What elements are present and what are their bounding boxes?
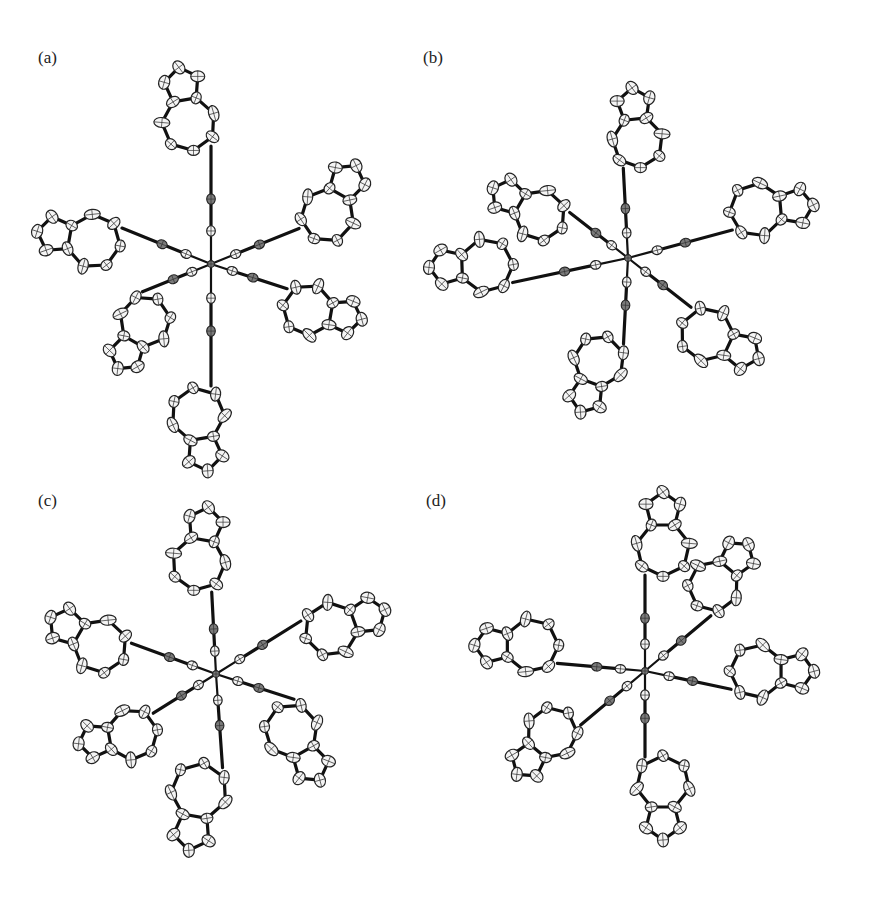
- ring-carbon-atom: [562, 706, 574, 720]
- ring-carbon-atom: [722, 664, 738, 679]
- ring-carbon-atom: [795, 216, 811, 229]
- ring-carbon-atom: [595, 381, 608, 393]
- ring-carbon-atom: [572, 371, 589, 386]
- ring-carbon-atom: [528, 767, 546, 785]
- ring-carbon-atom: [125, 751, 136, 768]
- ring-carbon-atom: [153, 117, 170, 128]
- alkynyl-carbon-atom: [207, 226, 216, 236]
- ring-carbon-atom: [673, 496, 687, 512]
- ring-carbon-atom: [486, 200, 503, 215]
- ring-carbon-atom: [111, 361, 124, 376]
- alkynyl-carbon-atom: [207, 293, 216, 303]
- ring-carbon-atom: [191, 71, 205, 82]
- ring-carbon-atom: [44, 631, 61, 646]
- ring-carbon-atom: [540, 658, 557, 675]
- ring-carbon-atom: [496, 277, 511, 294]
- ring-carbon-atom: [633, 558, 650, 574]
- ring-carbon-atom: [755, 688, 771, 707]
- ring-carbon-atom: [377, 601, 393, 618]
- alkynyl-carbon-atom: [621, 300, 630, 311]
- ring-carbon-atom: [180, 453, 198, 470]
- ring-carbon-atom: [759, 227, 770, 244]
- ring-carbon-atom: [715, 304, 731, 323]
- ring-carbon-atom: [322, 594, 333, 611]
- ring-carbon-atom: [726, 327, 741, 342]
- ring-carbon-atom: [216, 407, 234, 425]
- ring-carbon-atom: [752, 350, 766, 366]
- ring-carbon-atom: [516, 225, 530, 243]
- ring-carbon-atom: [678, 759, 690, 773]
- alkynyl-carbon-atom: [156, 238, 169, 250]
- ring-carbon-atom: [188, 585, 200, 595]
- ring-carbon-atom: [182, 508, 196, 524]
- ring-carbon-atom: [348, 157, 364, 174]
- metal-center-atom: [642, 668, 649, 675]
- ring-carbon-atom: [105, 215, 122, 232]
- ring-carbon-atom: [207, 430, 220, 442]
- ring-carbon-atom: [300, 326, 318, 344]
- alkynyl-carbon-atom: [207, 194, 216, 204]
- alkynyl-carbon-atom: [209, 624, 218, 635]
- ring-carbon-atom: [103, 741, 120, 758]
- alkynyl-carbon-atom: [229, 248, 242, 260]
- ring-carbon-atom: [313, 772, 327, 788]
- ring-carbon-atom: [345, 294, 362, 309]
- ring-carbon-atom: [733, 684, 746, 700]
- ring-carbon-atom: [300, 606, 316, 623]
- ring-carbon-atom: [553, 639, 565, 653]
- ring-carbon-atom: [207, 534, 221, 549]
- ring-carbon-atom: [43, 609, 58, 626]
- alkynyl-carbon-atom: [622, 277, 631, 288]
- alkynyl-carbon-atom: [641, 639, 650, 649]
- ring-carbon-atom: [541, 617, 557, 632]
- alkynyl-carbon-atom: [641, 690, 650, 700]
- ring-carbon-atom: [656, 748, 671, 763]
- alkynyl-carbon-atom: [591, 662, 602, 671]
- ring-carbon-atom: [690, 599, 705, 613]
- ring-carbon-atom: [64, 218, 79, 233]
- ring-carbon-atom: [474, 231, 485, 248]
- ring-carbon-atom: [654, 128, 671, 139]
- metal-center-atom: [213, 671, 220, 678]
- alkynyl-carbon-atom: [215, 720, 224, 731]
- ring-carbon-atom: [478, 621, 495, 636]
- alkynyl-carbon-atom: [679, 237, 691, 248]
- ring-carbon-atom: [677, 340, 689, 353]
- ring-carbon-atom: [164, 94, 181, 110]
- ring-carbon-atom: [327, 161, 343, 174]
- ring-carbon-atom: [485, 179, 500, 196]
- alkynyl-carbon-atom: [253, 238, 266, 250]
- alkynyl-carbon-atom: [186, 660, 199, 672]
- ring-carbon-atom: [570, 725, 585, 742]
- ring-carbon-atom: [558, 745, 577, 761]
- ring-carbon-atom: [216, 517, 230, 528]
- metal-center-atom: [625, 255, 632, 262]
- ring-carbon-atom: [38, 243, 55, 258]
- alkynyl-carbon-atom: [641, 713, 650, 723]
- ring-carbon-atom: [208, 576, 225, 592]
- ring-carbon-atom: [740, 536, 756, 553]
- ring-carbon-atom: [591, 398, 609, 415]
- ring-carbon-atom: [611, 366, 629, 384]
- ring-carbon-atom: [174, 763, 186, 777]
- ring-carbon-atom: [511, 767, 524, 782]
- alkynyl-carbon-atom: [163, 651, 176, 663]
- ring-carbon-atom: [634, 163, 646, 173]
- ring-carbon-atom: [722, 205, 737, 219]
- ring-carbon-atom: [652, 148, 668, 163]
- ring-carbon-atom: [523, 713, 534, 730]
- alkynyl-carbon-atom: [213, 695, 222, 706]
- ring-carbon-atom: [793, 681, 810, 696]
- ring-carbon-atom: [188, 145, 200, 155]
- alkynyl-carbon-atom: [167, 273, 180, 285]
- alkynyl-carbon-atom: [253, 682, 266, 693]
- ring-carbon-atom: [560, 387, 578, 404]
- alkynyl-carbon-atom: [590, 260, 602, 271]
- alkynyl-carbon-atom: [641, 613, 650, 623]
- alkynyl-carbon-atom: [651, 245, 663, 256]
- ring-carbon-atom: [262, 740, 280, 758]
- alkynyl-carbon-atom: [185, 266, 198, 278]
- alkynyl-carbon-atom: [210, 646, 219, 657]
- ring-carbon-atom: [163, 783, 179, 802]
- metal-center-atom: [208, 261, 215, 268]
